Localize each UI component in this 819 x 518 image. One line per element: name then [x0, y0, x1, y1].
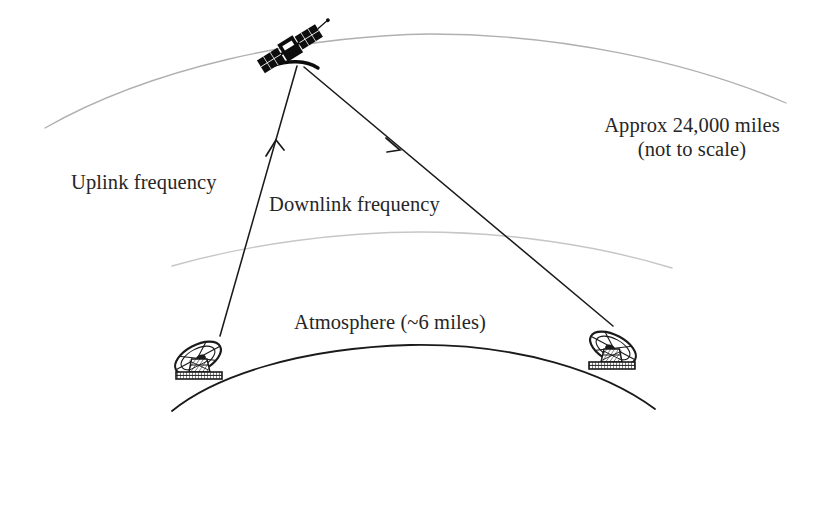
arrow-up-icon — [266, 140, 284, 156]
downlink-frequency-label: Downlink frequency — [269, 192, 440, 216]
atmosphere-label: Atmosphere (~6 miles) — [294, 310, 486, 334]
atmosphere-arc — [172, 232, 672, 268]
orbit-distance-label: Approx 24,000 miles (not to scale) — [592, 113, 792, 161]
diagram-canvas — [0, 0, 819, 518]
ground-station-right — [585, 325, 641, 371]
earth-surface-arc — [172, 345, 655, 411]
orbit-distance-line-1: Approx 24,000 miles — [604, 114, 780, 136]
uplink-frequency-label: Uplink frequency — [71, 170, 217, 194]
ground-station-left — [170, 335, 226, 381]
satellite-link-diagram: Uplink frequency Downlink frequency Atmo… — [0, 0, 819, 518]
orbit-distance-line-2: (not to scale) — [592, 137, 792, 161]
